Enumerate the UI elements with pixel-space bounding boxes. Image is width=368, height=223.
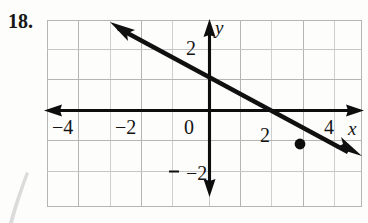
x-tick-label-minus4: −4	[52, 117, 73, 137]
x-tick-label-minus2: −2	[115, 117, 136, 137]
screenshot-root: 18.	[0, 0, 368, 223]
y-tick-label-minus2: −2	[186, 163, 207, 183]
x-tick-label-4: 4	[324, 117, 334, 137]
x-tick-label-2: 2	[260, 125, 270, 145]
y-axis-label: y	[215, 18, 223, 37]
x-tick-label-zero: 0	[184, 117, 194, 137]
y-tick-label-2: 2	[186, 38, 196, 58]
x-axis	[44, 105, 364, 117]
line-point-marker	[295, 139, 306, 150]
coordinate-graph: −4 −2 0 2 4 x 2 −2 y	[0, 0, 368, 223]
graph-canvas	[0, 0, 368, 223]
x-axis-label: x	[348, 119, 356, 138]
